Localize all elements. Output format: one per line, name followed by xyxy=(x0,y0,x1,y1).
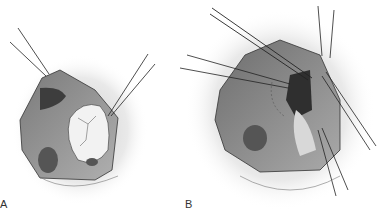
panel-label-b: B xyxy=(185,198,192,210)
illustration-canvas xyxy=(0,0,382,216)
panel-a-illustration xyxy=(10,28,155,205)
panel-label-a: A xyxy=(0,198,7,210)
panel-b-illustration xyxy=(180,6,376,210)
